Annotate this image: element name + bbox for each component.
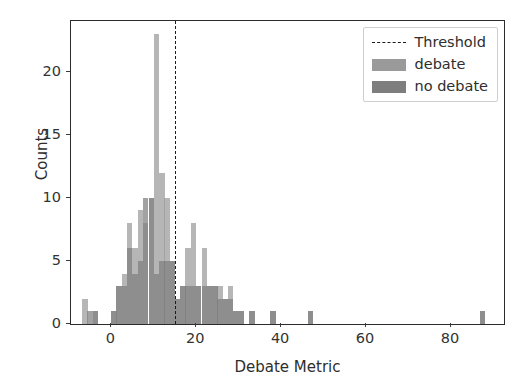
y-axis-label: Counts — [33, 94, 51, 214]
plot-area: Threshold debate no debate — [70, 20, 505, 325]
histogram-bar — [270, 311, 275, 324]
x-axis-tick-label: 0 — [106, 330, 115, 346]
x-axis-tick-label: 40 — [271, 330, 289, 346]
threshold-line — [175, 21, 176, 324]
x-axis-tick — [110, 323, 111, 327]
legend-label-no-debate: no debate — [415, 79, 489, 94]
x-axis-tick — [280, 323, 281, 327]
legend-label-debate: debate — [415, 57, 466, 72]
x-axis-tick — [365, 323, 366, 327]
y-axis-tick — [66, 260, 70, 261]
histogram-bar — [480, 311, 485, 324]
histogram-bar — [93, 311, 98, 324]
legend-patch-no-debate-icon — [372, 80, 406, 93]
histogram-bar — [116, 286, 121, 324]
x-axis-tick-label: 60 — [356, 330, 374, 346]
y-axis-tick — [66, 323, 70, 324]
legend-item-no-debate: no debate — [372, 78, 489, 95]
histogram-figure: Threshold debate no debate 0204060800510… — [0, 0, 530, 387]
legend-label-threshold: Threshold — [415, 35, 486, 50]
y-axis-tick — [66, 71, 70, 72]
x-axis-tick — [195, 323, 196, 327]
legend-dash-icon — [372, 36, 406, 49]
histogram-bar — [239, 311, 244, 324]
histogram-bar — [249, 311, 254, 324]
legend-item-debate: debate — [372, 56, 489, 73]
histogram-bar — [207, 286, 212, 324]
x-axis-tick — [450, 323, 451, 327]
histogram-bar — [308, 311, 313, 324]
y-axis-tick-label: 0 — [24, 315, 61, 331]
histogram-bar — [164, 261, 169, 324]
legend-patch-debate-icon — [372, 58, 406, 71]
y-axis-tick-label: 20 — [24, 63, 61, 79]
legend-item-threshold: Threshold — [372, 34, 489, 51]
y-axis-tick — [66, 197, 70, 198]
x-axis-label: Debate Metric — [70, 358, 505, 376]
y-axis-tick — [66, 134, 70, 135]
y-axis-tick-label: 5 — [24, 252, 61, 268]
legend: Threshold debate no debate — [363, 27, 499, 102]
x-axis-tick-label: 20 — [186, 330, 204, 346]
x-axis-tick-label: 80 — [441, 330, 459, 346]
